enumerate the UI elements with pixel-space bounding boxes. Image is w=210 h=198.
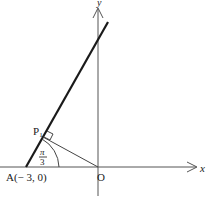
point-p1-label: P1: [33, 125, 43, 139]
perpendicular-op1: [43, 137, 98, 167]
x-axis-label: x: [199, 162, 205, 174]
point-p1-subscript: 1: [39, 131, 43, 139]
angle-denominator: 3: [40, 157, 45, 167]
point-a-label: A(− 3, 0): [6, 171, 47, 184]
angle-arc: [42, 139, 59, 167]
angle-numerator: π: [40, 147, 45, 157]
line-through-a: [26, 22, 108, 167]
coordinate-diagram: x y O π 3 P1 A(− 3, 0): [0, 0, 210, 198]
y-axis-label: y: [96, 0, 102, 8]
origin-label: O: [97, 171, 105, 183]
